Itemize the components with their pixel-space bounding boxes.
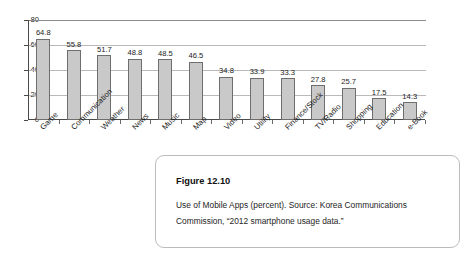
bar-value-label: 64.8	[36, 29, 51, 37]
bar-value-label: 14.3	[402, 93, 417, 101]
x-tick-mark	[211, 120, 212, 124]
bar	[219, 77, 233, 121]
bar-value-label: 25.7	[341, 78, 356, 86]
bar	[67, 50, 81, 120]
y-tick-mark-0	[24, 120, 28, 121]
x-tick-mark	[333, 120, 334, 124]
x-tick-mark	[181, 120, 182, 124]
x-tick-mark	[394, 120, 395, 124]
x-tick-mark	[150, 120, 151, 124]
bar-value-label: 17.5	[372, 89, 387, 97]
figure-caption-box: Figure 12.10 Use of Mobile Apps (percent…	[155, 155, 460, 248]
bar-value-label: 33.9	[250, 68, 265, 76]
bar-value-label: 33.3	[280, 69, 295, 77]
bar-value-label: 48.8	[127, 49, 142, 57]
bar-slot: 46.5	[181, 20, 212, 120]
figure-12-10: 020406080 64.855.851.748.848.546.534.833…	[0, 0, 470, 259]
bar-slot: 33.3	[272, 20, 303, 120]
x-tick-mark	[242, 120, 243, 124]
bar-slot: 48.5	[150, 20, 181, 120]
bar-value-label: 48.5	[158, 50, 173, 58]
bar-value-label: 55.8	[66, 41, 81, 49]
bar	[189, 62, 203, 120]
x-tick-mark	[303, 120, 304, 124]
bar	[128, 59, 142, 120]
x-tick-mark	[272, 120, 273, 124]
x-tick-mark	[120, 120, 121, 124]
bar-slot: 48.8	[120, 20, 151, 120]
x-tick-mark	[59, 120, 60, 124]
x-tick-mark	[89, 120, 90, 124]
bar	[36, 39, 50, 120]
x-tick-mark	[364, 120, 365, 124]
bar-slot: 34.8	[211, 20, 242, 120]
bar	[250, 78, 264, 120]
x-tick-mark	[425, 120, 426, 124]
bar-value-label: 46.5	[189, 52, 204, 60]
bar-slot: 64.8	[28, 20, 59, 120]
bar-value-label: 34.8	[219, 67, 234, 75]
figure-caption-title: Figure 12.10	[176, 177, 230, 186]
bar	[158, 59, 172, 120]
bar-value-label: 27.8	[311, 76, 326, 84]
figure-caption-body: Use of Mobile Apps (percent). Source: Ko…	[176, 197, 444, 229]
bar	[281, 78, 295, 120]
bar-slot: 55.8	[59, 20, 90, 120]
bar-slot: 33.9	[242, 20, 273, 120]
bar-value-label: 51.7	[97, 46, 112, 54]
